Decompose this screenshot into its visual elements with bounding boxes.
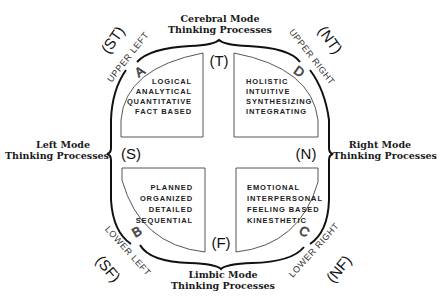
- trait: LOGICAL: [152, 77, 192, 86]
- trait: SEQUENTIAL: [136, 216, 193, 225]
- trait: FEELING BASED: [247, 205, 320, 214]
- quadrant-letter-d: D: [291, 63, 307, 81]
- limbic-mode-line1: Limbic Mode: [188, 269, 257, 280]
- trait: ANALYTICAL: [136, 87, 192, 96]
- type-code-st: (ST): [97, 23, 128, 57]
- cerebral-mode-label: Cerebral Mode Thinking Processes: [168, 13, 272, 35]
- right-mode-line1: Right Mode: [349, 139, 411, 150]
- axis-code-top: (T): [209, 52, 228, 69]
- type-code-sf: (SF): [92, 252, 124, 285]
- trait: DETAILED: [149, 205, 193, 214]
- right-mode-line2: Thinking Processes: [333, 150, 437, 161]
- trait: INTUITIVE: [246, 87, 290, 96]
- trait: SYNTHESIZING: [246, 97, 312, 106]
- trait: ORGANIZED: [140, 194, 193, 203]
- trait: KINESTHETIC: [247, 216, 307, 225]
- limbic-mode-label: Limbic Mode Thinking Processes: [171, 269, 275, 291]
- trait: EMOTIONAL: [247, 183, 300, 192]
- axis-code-left: (S): [121, 145, 141, 162]
- right-mode-label: Right Mode Thinking Processes: [333, 139, 437, 161]
- trait: HOLISTIC: [246, 77, 288, 86]
- trait: INTERPERSONAL: [247, 194, 323, 203]
- trait: QUANTITATIVE: [127, 97, 192, 106]
- quadrant-letter-a: A: [132, 63, 148, 80]
- trait: FACT BASED: [135, 107, 192, 116]
- left-mode-line1: Left Mode: [36, 139, 90, 150]
- quadrant-letter-b: B: [129, 223, 144, 240]
- limbic-mode-line2: Thinking Processes: [171, 280, 275, 291]
- type-code-nt: (NT): [315, 23, 346, 57]
- left-mode-label: Left Mode Thinking Processes: [5, 139, 109, 161]
- type-code-nf: (NF): [322, 252, 354, 286]
- quadrant-lower-right-traits: EMOTIONAL INTERPERSONAL FEELING BASED KI…: [247, 183, 323, 225]
- left-mode-line2: Thinking Processes: [5, 150, 109, 161]
- quadrant-upper-right-traits: HOLISTIC INTUITIVE SYNTHESIZING INTEGRAT…: [246, 77, 312, 116]
- cerebral-mode-line2: Thinking Processes: [168, 24, 272, 35]
- whole-brain-model-diagram: Cerebral Mode Thinking Processes Left Mo…: [0, 0, 440, 303]
- quadrant-lower-left-traits: PLANNED ORGANIZED DETAILED SEQUENTIAL: [136, 183, 193, 225]
- trait: INTEGRATING: [246, 107, 307, 116]
- cerebral-mode-line1: Cerebral Mode: [181, 13, 260, 24]
- axis-code-right: (N): [296, 145, 317, 162]
- trait: PLANNED: [150, 183, 193, 192]
- quadrant-upper-left-traits: LOGICAL ANALYTICAL QUANTITATIVE FACT BAS…: [127, 77, 192, 116]
- quadrant-letter-c: C: [296, 223, 312, 241]
- axis-code-bottom: (F): [211, 234, 230, 251]
